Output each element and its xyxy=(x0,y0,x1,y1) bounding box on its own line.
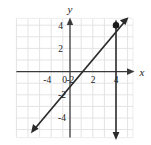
intersection-point-marker xyxy=(113,22,119,28)
y-tick-label--4: -4 xyxy=(58,113,66,123)
y-tick-label-2: 2 xyxy=(58,44,63,54)
x-tick-label--2: -2 xyxy=(66,75,74,85)
y-tick-label--2: -2 xyxy=(58,90,66,100)
x-axis-label: x xyxy=(139,66,145,78)
coordinate-plane-figure: -4 -2 0 2 4 4 2 -2 -4 x y xyxy=(0,0,151,145)
x-tick-label-4: 4 xyxy=(114,75,119,85)
graph-canvas: -4 -2 0 2 4 4 2 -2 -4 x y xyxy=(0,0,151,145)
x-tick-label--4: -4 xyxy=(43,75,51,85)
x-tick-label-2: 2 xyxy=(91,75,96,85)
x-tick-label-0: 0 xyxy=(62,75,67,85)
y-tick-label-4: 4 xyxy=(58,21,63,31)
y-axis-label: y xyxy=(67,3,73,15)
